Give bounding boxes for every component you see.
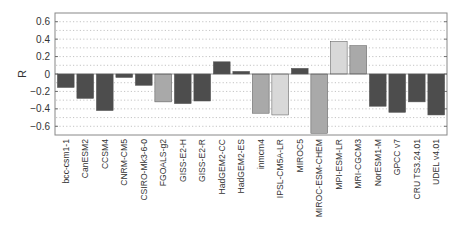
x-tick-label: GISS-E2-R xyxy=(197,139,207,182)
bar-mri-cgcm3 xyxy=(350,46,367,74)
bar-miroc5 xyxy=(291,68,308,74)
bar-giss-e2-r xyxy=(194,74,211,101)
x-tick-label: MRI-CGCM3 xyxy=(353,139,363,189)
bar-cnrm-cm5 xyxy=(116,74,133,77)
x-tick-label: IPSL-CM5A-LR xyxy=(275,139,285,198)
x-tick-label: bcc-csm1-1 xyxy=(61,139,71,184)
x-tick-label: MPI-ESM-LR xyxy=(334,139,344,190)
y-tick-label: −0.4 xyxy=(30,103,50,114)
bar-udel-v4-01 xyxy=(428,74,445,115)
x-tick-label: CNRM-CM5 xyxy=(119,139,129,186)
bar-inmcm4 xyxy=(252,74,269,113)
bar-ccsm4 xyxy=(96,74,113,111)
x-tick-label: NorESM1-M xyxy=(373,139,383,186)
x-tick-label: FGOALS-g2 xyxy=(158,139,168,187)
x-tick-label: GPCC v7 xyxy=(392,139,402,176)
x-tick-label: CanESM2 xyxy=(80,139,90,178)
x-tick-label: inmcm4 xyxy=(256,139,266,169)
y-tick-label: 0.2 xyxy=(36,51,50,62)
bar-noresm1-m xyxy=(369,74,386,106)
y-axis-title: R xyxy=(16,70,28,78)
y-tick-label: −0.2 xyxy=(30,86,50,97)
bar-ipsl-cm5a-lr xyxy=(272,74,289,115)
x-axis-labels: bcc-csm1-1CanESM2CCSM4CNRM-CM5CSIRO-Mk3-… xyxy=(61,139,442,218)
bar-mpi-esm-lr xyxy=(330,41,347,74)
bar-bcc-csm1-1 xyxy=(57,74,74,88)
x-tick-label: HadGEM2-ES xyxy=(236,139,246,194)
bar-gpcc-v7 xyxy=(389,74,406,112)
bar-hadgem2-cc xyxy=(213,62,230,74)
bar-miroc-esm-chem xyxy=(311,74,328,133)
x-tick-label: GISS-E2-H xyxy=(178,139,188,182)
y-tick-label: 0.4 xyxy=(36,34,50,45)
bar-csiro-mk3-6-0 xyxy=(135,74,152,85)
bar-chart: 0.60.40.20−0.2−0.4−0.6 bcc-csm1-1CanESM2… xyxy=(0,0,453,228)
y-tick-label: 0 xyxy=(44,69,50,80)
x-tick-label: HadGEM2-CC xyxy=(217,139,227,194)
x-tick-label: UDEL v4.01 xyxy=(431,139,441,185)
y-tick-label: 0.6 xyxy=(36,16,50,27)
x-tick-label: CRU TS3.24.01 xyxy=(412,139,422,200)
x-tick-label: MIROC5 xyxy=(295,139,305,173)
bar-hadgem2-es xyxy=(233,71,250,74)
bar-cru-ts3-24-01 xyxy=(408,74,425,102)
bar-fgoals-g2 xyxy=(155,74,172,102)
x-tick-label: CSIRO-Mk3-6-0 xyxy=(139,139,149,201)
bar-canesm2 xyxy=(77,74,94,98)
bar-giss-e2-h xyxy=(174,74,191,104)
y-tick-label: −0.6 xyxy=(30,121,50,132)
x-tick-label: MIROC-ESM-CHEM xyxy=(314,139,324,217)
x-tick-label: CCSM4 xyxy=(100,139,110,169)
bars xyxy=(57,41,444,133)
